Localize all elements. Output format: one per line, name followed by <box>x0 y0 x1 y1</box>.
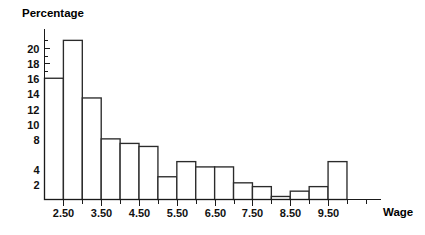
y-tick-label: 10 <box>27 119 39 131</box>
histogram-bar <box>63 40 82 199</box>
x-tick-label: 3.50 <box>91 207 112 219</box>
histogram-bars <box>45 40 347 199</box>
y-tick-label: 2 <box>33 179 39 191</box>
x-tick-label: 7.50 <box>242 207 263 219</box>
y-tick-label: 16 <box>27 73 39 85</box>
y-tick-label: 4 <box>33 164 40 176</box>
x-axis-title: Wage <box>383 206 413 218</box>
histogram-bar <box>328 162 347 200</box>
histogram-bar <box>177 162 196 200</box>
histogram-bar <box>215 167 234 200</box>
y-tick-label: 12 <box>27 104 39 116</box>
histogram-chart: Percentage Wage 248101214161820 2.503.50… <box>0 0 425 235</box>
histogram-bar <box>196 167 215 200</box>
x-tick-label: 2.50 <box>53 207 74 219</box>
y-tick-label: 18 <box>27 58 39 70</box>
chart-canvas: Percentage Wage 248101214161820 2.503.50… <box>0 0 425 235</box>
y-axis-title: Percentage <box>22 7 84 19</box>
histogram-bar <box>139 146 158 199</box>
histogram-bar <box>82 98 101 200</box>
histogram-bar <box>45 78 64 199</box>
histogram-bar <box>234 183 253 200</box>
y-tick-label: 14 <box>27 88 40 100</box>
y-tick-label: 8 <box>33 134 39 146</box>
x-tick-label: 4.50 <box>129 207 150 219</box>
histogram-bar <box>120 143 139 199</box>
x-tick-label: 8.50 <box>280 207 301 219</box>
x-tick-label: 5.50 <box>167 207 188 219</box>
x-axis-tick-labels: 2.503.504.505.506.507.508.509.50 <box>53 207 339 219</box>
histogram-bar <box>290 191 309 199</box>
x-tick-label: 9.50 <box>318 207 339 219</box>
y-axis-tick-labels: 248101214161820 <box>27 43 40 191</box>
histogram-bar <box>309 187 328 200</box>
x-tick-label: 6.50 <box>205 207 226 219</box>
y-tick-label: 20 <box>27 43 39 55</box>
histogram-bar <box>252 187 271 200</box>
histogram-bar <box>101 139 120 200</box>
histogram-bar <box>158 177 177 200</box>
